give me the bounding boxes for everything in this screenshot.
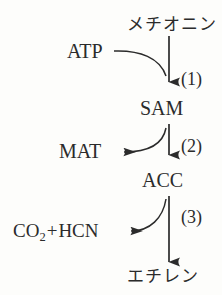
co2-subscript: 2	[39, 230, 45, 244]
node-label-methionine: メチオニン	[127, 16, 217, 33]
step-label-1: (1)	[181, 70, 202, 88]
node-label-atp: ATP	[67, 41, 103, 61]
step-label-2: (2)	[181, 137, 202, 155]
arrow-atp-input	[114, 51, 166, 76]
step-label-3: (3)	[181, 208, 202, 226]
node-label-sam: SAM	[140, 98, 183, 118]
arrow-co2-hcn-output	[131, 199, 166, 231]
pathway-diagram-canvas: メチオニン ATP (1) SAM (2) MAT ACC (3) CO2+HC…	[0, 0, 222, 295]
node-label-co2-plus-hcn: CO2+HCN	[13, 221, 99, 243]
hcn-formula: HCN	[58, 220, 98, 241]
node-label-ethylene: エチレン	[127, 268, 199, 285]
node-label-acc: ACC	[142, 170, 183, 190]
node-label-mat: MAT	[59, 141, 101, 161]
arrow-mat-output	[124, 128, 166, 152]
plus-sign: +	[46, 220, 59, 241]
co2-formula-base: CO	[13, 220, 39, 241]
